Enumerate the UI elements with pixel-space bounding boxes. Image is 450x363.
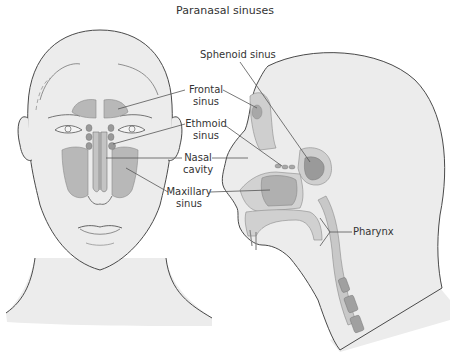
side-view-figure bbox=[222, 53, 450, 352]
diagram-canvas: Paranasal sinuses bbox=[0, 0, 450, 363]
label-ethmoid-line1: Ethmoid bbox=[184, 118, 228, 130]
frontal-sinus-side bbox=[252, 105, 262, 119]
front-view-figure bbox=[6, 30, 212, 326]
label-nasal-line2: cavity bbox=[183, 164, 213, 176]
label-frontal-line1: Frontal bbox=[186, 84, 226, 96]
label-ethmoid-sinus: Ethmoid sinus bbox=[184, 118, 228, 142]
label-pharynx: Pharynx bbox=[353, 226, 394, 238]
label-nasal-cavity: Nasal cavity bbox=[183, 152, 213, 176]
label-sphenoid-sinus: Sphenoid sinus bbox=[200, 49, 276, 61]
label-maxillary-line2: sinus bbox=[166, 198, 212, 210]
label-maxillary-line1: Maxillary bbox=[166, 186, 212, 198]
label-ethmoid-line2: sinus bbox=[184, 130, 228, 142]
label-nasal-line1: Nasal bbox=[183, 152, 213, 164]
maxillary-sinus-side bbox=[261, 176, 297, 206]
label-frontal-line2: sinus bbox=[186, 96, 226, 108]
label-maxillary-sinus: Maxillary sinus bbox=[166, 186, 212, 210]
label-frontal-sinus: Frontal sinus bbox=[186, 84, 226, 108]
